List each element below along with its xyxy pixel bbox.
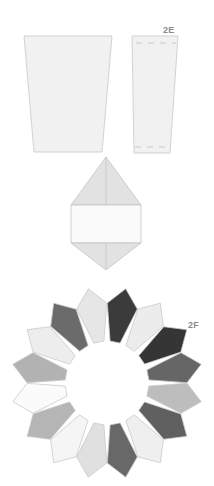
kite-piece (71, 157, 141, 270)
narrow-trapezoid-template (132, 36, 178, 153)
large-trapezoid-template (24, 36, 112, 152)
kite-center-band (71, 205, 141, 243)
dresden-plate-ring (13, 289, 201, 477)
diagram-canvas (0, 0, 214, 486)
